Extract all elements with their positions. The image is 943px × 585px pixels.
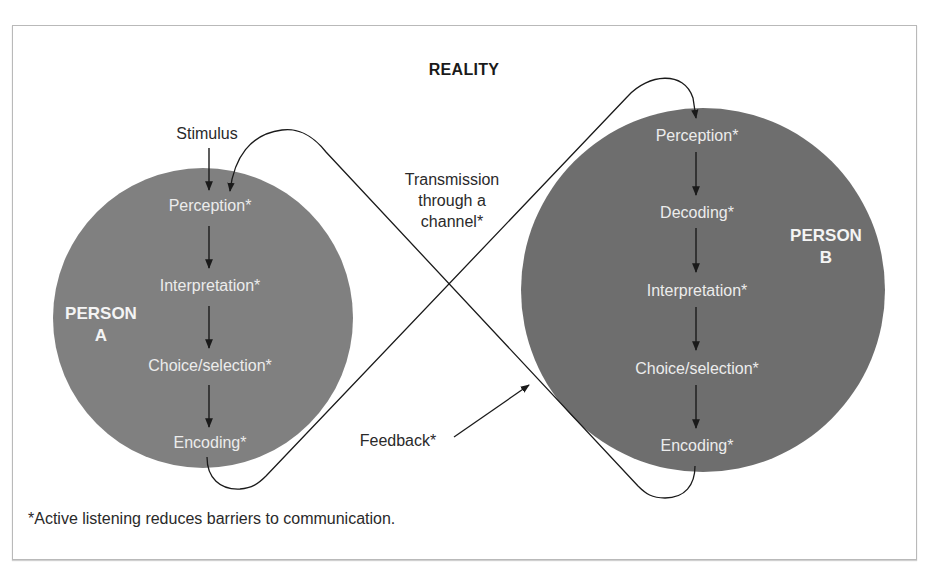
communication-model-diagram: [0, 0, 943, 585]
stimulus-label: Stimulus: [176, 125, 237, 143]
person-a-step-choice: Choice/selection*: [148, 357, 272, 375]
transmission-label-line2: through a: [405, 190, 500, 211]
person-b-step-encoding: Encoding*: [661, 437, 734, 455]
person-a-step-perception: Perception*: [169, 197, 252, 215]
person-b-step-interpretation: Interpretation*: [647, 282, 748, 300]
person-a-step-encoding: Encoding*: [174, 434, 247, 452]
person-b-step-perception: Perception*: [656, 127, 739, 145]
transmission-label: Transmission through a channel*: [405, 169, 500, 232]
person-b-label-line2: B: [790, 247, 862, 269]
person-a-label-line1: PERSON: [65, 303, 137, 325]
person-b-label: PERSON B: [790, 225, 862, 269]
feedback-label: Feedback*: [360, 432, 437, 450]
footnote: *Active listening reduces barriers to co…: [28, 510, 395, 528]
person-b-step-choice: Choice/selection*: [635, 360, 759, 378]
transmission-label-line3: channel*: [405, 211, 500, 232]
person-a-step-interpretation: Interpretation*: [160, 277, 261, 295]
person-a-label-line2: A: [65, 325, 137, 347]
diagram-title: REALITY: [429, 61, 500, 79]
feedback-arrow: [454, 385, 529, 437]
transmission-label-line1: Transmission: [405, 169, 500, 190]
person-b-label-line1: PERSON: [790, 225, 862, 247]
person-b-step-decoding: Decoding*: [660, 204, 734, 222]
person-a-label: PERSON A: [65, 303, 137, 347]
